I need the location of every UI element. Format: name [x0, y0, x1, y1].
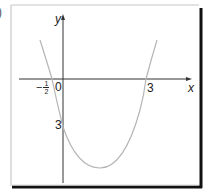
x-axis-label: x	[188, 82, 194, 94]
fraction-denominator: 2	[44, 88, 48, 95]
y-axis-label: y	[55, 13, 61, 25]
minus-sign: −	[36, 82, 42, 93]
fraction-numerator: 1	[43, 80, 49, 88]
graph-canvas	[0, 0, 208, 193]
fraction: 1 2	[43, 80, 49, 95]
parabola-curve	[40, 40, 157, 168]
x-intercept-left-label: − 1 2	[36, 80, 49, 95]
x-intercept-right-label: 3	[147, 82, 154, 94]
origin-label: 0	[55, 81, 62, 93]
y-axis-arrow-icon	[61, 14, 65, 20]
y-intercept-label: 3	[55, 119, 62, 131]
parabola-graph-figure: ) y x 0 − 1 2 3 3	[0, 0, 208, 193]
